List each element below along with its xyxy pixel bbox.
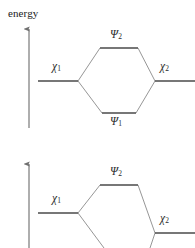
orbital-label-symbol: Ψ xyxy=(110,115,118,127)
orbital-label-chi-1: χ1 xyxy=(52,192,61,205)
connector-line xyxy=(78,81,102,113)
orbital-label-psi-2: Ψ2 xyxy=(110,28,122,41)
connector-line xyxy=(78,185,100,213)
orbital-label-chi-2: χ2 xyxy=(160,60,169,73)
mo-diagram-canvas xyxy=(0,0,195,248)
connector-line xyxy=(138,185,155,233)
orbital-label-subscript: 1 xyxy=(57,196,61,205)
orbital-label-chi-1: χ1 xyxy=(52,60,61,73)
orbital-label-psi-1: Ψ1 xyxy=(110,115,122,128)
connector-line xyxy=(136,81,155,113)
orbital-label-subscript: 2 xyxy=(165,64,169,73)
mo-diagram-figure: χ1χ2Ψ2Ψ1energyχ1χ2Ψ2 xyxy=(0,0,195,248)
orbital-label-subscript: 1 xyxy=(57,64,61,73)
orbital-label-symbol: Ψ xyxy=(110,28,118,40)
orbital-label-subscript: 2 xyxy=(118,169,122,178)
orbital-label-subscript: 2 xyxy=(165,216,169,225)
orbital-label-symbol: Ψ xyxy=(110,165,118,177)
connector-line xyxy=(150,233,155,248)
connector-line xyxy=(78,213,104,248)
orbital-label-psi-2: Ψ2 xyxy=(110,165,122,178)
orbital-label-chi-2: χ2 xyxy=(160,212,169,225)
connector-line xyxy=(78,48,100,81)
orbital-label-subscript: 1 xyxy=(118,119,122,128)
connector-line xyxy=(138,48,155,81)
orbital-label-subscript: 2 xyxy=(118,32,122,41)
energy-axis-label: energy xyxy=(8,7,38,19)
